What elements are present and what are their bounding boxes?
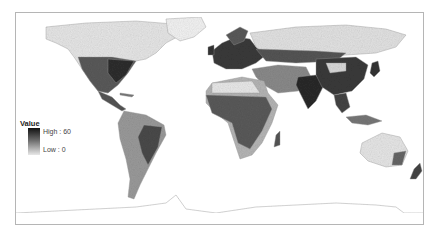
legend-low-label: Low : 0	[43, 146, 66, 153]
south-america	[118, 111, 166, 199]
legend: Value High : 60 Low : 0	[20, 119, 90, 163]
antarctica	[16, 195, 424, 213]
legend-color-ramp	[28, 128, 40, 155]
east-asia	[316, 57, 368, 95]
legend-high-label: High : 60	[43, 128, 71, 135]
legend-title: Value	[20, 119, 40, 128]
map-frame: Value High : 60 Low : 0	[15, 12, 424, 225]
